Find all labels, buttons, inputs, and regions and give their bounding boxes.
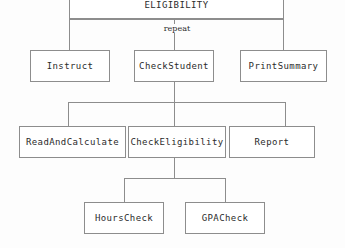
connector-root-to-printsummary <box>283 19 284 50</box>
connector-checkstudent-bus <box>68 102 285 103</box>
node-eligibility[interactable]: ELIGIBILITY <box>69 0 284 19</box>
node-report-label: Report <box>255 137 290 147</box>
connector-root-to-instruct <box>69 19 70 50</box>
connector-checkeligibility-down <box>174 158 175 178</box>
node-eligibility-label: ELIGIBILITY <box>144 0 208 10</box>
node-hours-check-label: HoursCheck <box>95 213 153 223</box>
node-check-eligibility[interactable]: CheckEligibility <box>128 126 226 158</box>
node-check-eligibility-label: CheckEligibility <box>130 137 223 147</box>
connector-root-bus <box>69 19 284 20</box>
connector-bus-to-hourscheck <box>124 178 125 202</box>
node-hours-check[interactable]: HoursCheck <box>84 202 164 234</box>
node-check-student-label: CheckStudent <box>139 61 209 71</box>
node-read-and-calculate-label: ReadAndCalculate <box>26 137 119 147</box>
connector-bus-to-report <box>285 102 286 126</box>
node-instruct-label: Instruct <box>47 61 94 71</box>
connector-bus-to-checkeligibility <box>174 102 175 126</box>
node-print-summary-label: PrintSummary <box>249 61 319 71</box>
structure-chart-diagram: ELIGIBILITY repeat Instruct CheckStudent… <box>0 0 345 248</box>
connector-checkstudent-down <box>174 82 175 102</box>
node-read-and-calculate[interactable]: ReadAndCalculate <box>19 126 126 158</box>
node-report[interactable]: Report <box>229 126 315 158</box>
node-gpa-check-label: GPACheck <box>202 213 249 223</box>
node-instruct[interactable]: Instruct <box>30 50 110 82</box>
edge-label-repeat: repeat <box>157 24 197 33</box>
connector-checkeligibility-bus <box>124 178 225 179</box>
connector-bus-to-readandcalculate <box>68 102 69 126</box>
node-gpa-check[interactable]: GPACheck <box>185 202 265 234</box>
connector-bus-to-gpacheck <box>225 178 226 202</box>
node-check-student[interactable]: CheckStudent <box>134 50 214 82</box>
node-print-summary[interactable]: PrintSummary <box>240 50 327 82</box>
